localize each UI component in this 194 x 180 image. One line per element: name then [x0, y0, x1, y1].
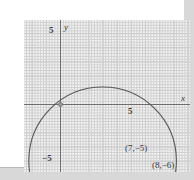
- x-tick-label-5: 5: [128, 107, 133, 116]
- annotation-point-7-neg5: (7,−5): [125, 144, 147, 153]
- graph-screenshot: 5 y 5 −5 x (7,−5) (8,−6): [0, 0, 194, 180]
- y-tick-label-5: 5: [49, 26, 54, 35]
- x-axis-label: x: [181, 94, 185, 103]
- figure-card: 5 y 5 −5 x (7,−5) (8,−6): [10, 8, 180, 166]
- plot-clip: [24, 20, 190, 172]
- annotation-point-8-neg6: (8,−6): [152, 161, 174, 170]
- circle-graph: [24, 20, 190, 172]
- y-axis-label: y: [64, 23, 68, 32]
- coordinate-plane: 5 y 5 −5 x (7,−5) (8,−6): [24, 20, 190, 172]
- origin-point-marker: [58, 102, 63, 107]
- y-tick-label-neg5: −5: [42, 154, 52, 163]
